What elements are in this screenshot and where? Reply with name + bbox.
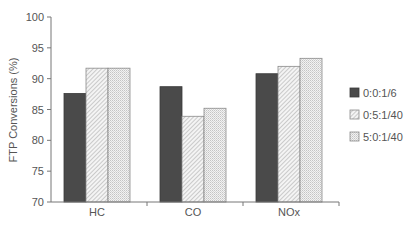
- bar-hc-series-1: [64, 93, 86, 202]
- legend-swatch: [350, 110, 359, 119]
- x-tick-label: HC: [89, 206, 105, 218]
- y-tick-label: 75: [32, 165, 44, 177]
- legend: 0:0:1/60:5:1/405:0:1/40: [350, 87, 403, 143]
- bar-chart: FTP Conversions (%) 707580859095100 HCCO…: [0, 0, 412, 225]
- y-axis-title: FTP Conversions (%): [7, 58, 19, 163]
- legend-label: 0:0:1/6: [363, 87, 397, 99]
- x-tick-label: CO: [185, 206, 202, 218]
- legend-label: 0:5:1/40: [363, 109, 403, 121]
- y-tick-label: 95: [32, 42, 44, 54]
- bar-hc-series-2: [86, 68, 108, 202]
- legend-swatch: [350, 88, 359, 97]
- legend-label: 5:0:1/40: [363, 131, 403, 143]
- y-tick-label: 85: [32, 104, 44, 116]
- y-tick-label: 70: [32, 196, 44, 208]
- bar-co-series-3: [204, 108, 226, 202]
- bar-hc-series-3: [108, 68, 130, 202]
- y-axis-ticks: 707580859095100: [26, 11, 51, 208]
- x-tick-label: NOx: [278, 206, 301, 218]
- bar-nox-series-2: [278, 66, 300, 202]
- x-axis-ticks: HCCONOx: [89, 202, 339, 218]
- bars: [64, 58, 322, 202]
- bar-co-series-2: [182, 116, 204, 202]
- y-tick-label: 100: [26, 11, 44, 23]
- bar-nox-series-3: [300, 58, 322, 202]
- y-tick-label: 80: [32, 134, 44, 146]
- y-tick-label: 90: [32, 73, 44, 85]
- bar-co-series-1: [160, 87, 182, 202]
- legend-swatch: [350, 132, 359, 141]
- bar-nox-series-1: [256, 74, 278, 202]
